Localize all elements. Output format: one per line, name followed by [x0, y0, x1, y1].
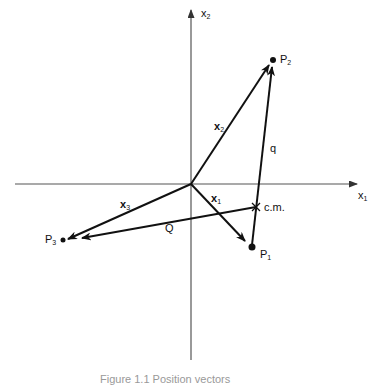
cm-label: c.m.: [264, 202, 285, 213]
p1-label: P1: [260, 249, 271, 261]
figure-caption: Figure 1.1 Position vectors: [100, 373, 230, 385]
x1-vector-label: x1: [211, 193, 221, 205]
point-p1: [249, 244, 256, 251]
vector-q: [252, 67, 272, 245]
x2-axis-label: x2: [201, 8, 210, 20]
vector-x2: [191, 65, 269, 184]
Q-vector-label: Q: [165, 223, 174, 234]
q-vector-label: q: [270, 143, 276, 154]
p3-label: P3: [45, 234, 56, 246]
x2-vector-label: x2: [214, 121, 224, 133]
x1-axis-label: x1: [358, 190, 367, 202]
point-p2: [270, 57, 276, 63]
x3-vector-label: x3: [120, 199, 130, 211]
point-p3: [61, 238, 66, 243]
p2-label: P2: [280, 54, 291, 66]
